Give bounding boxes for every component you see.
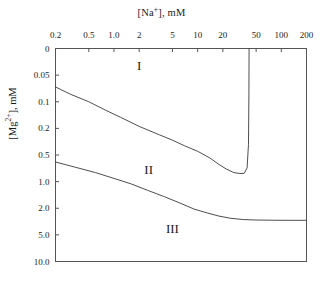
- region-label-iii: III: [166, 221, 179, 236]
- phase-diagram-figure: [Na+], mM [Mg2+], mM 0.20.51.02510205010…: [0, 0, 323, 281]
- plot-frame: [56, 49, 307, 262]
- plot-area: IIIIII: [0, 0, 323, 281]
- region-label-ii: II: [144, 162, 153, 177]
- region-label-i: I: [137, 58, 141, 73]
